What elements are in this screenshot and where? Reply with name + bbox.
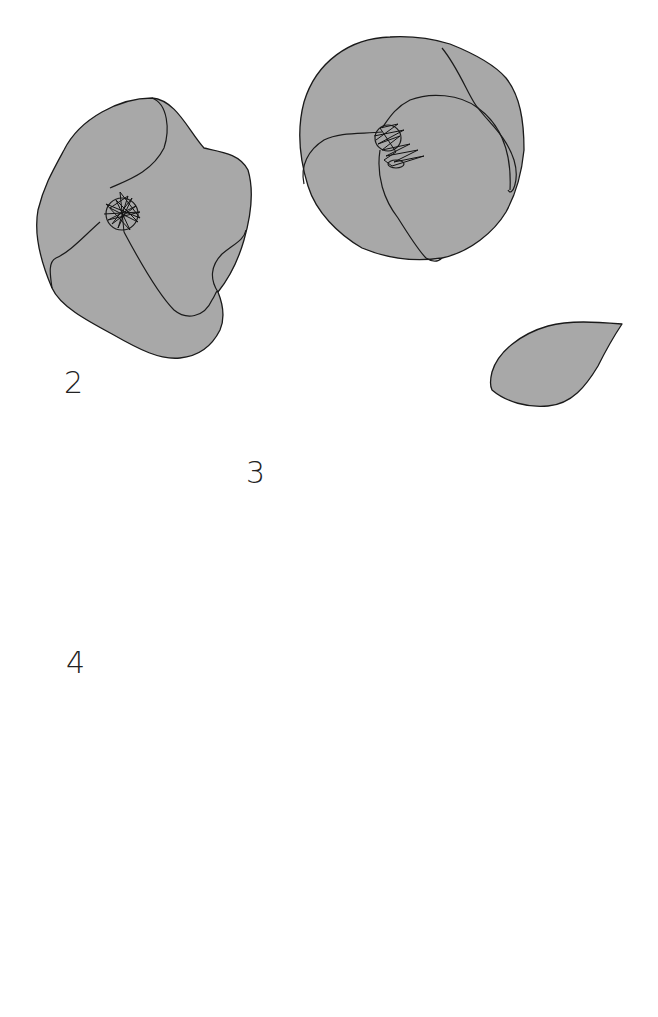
open-flower-left xyxy=(37,98,252,358)
step-label-4: 4 xyxy=(66,648,85,678)
step-label-3: 3 xyxy=(246,458,265,488)
template-canvas xyxy=(0,0,658,1017)
small-leaf xyxy=(491,322,623,406)
open-flower-right xyxy=(300,37,524,261)
step-label-2: 2 xyxy=(64,368,83,398)
